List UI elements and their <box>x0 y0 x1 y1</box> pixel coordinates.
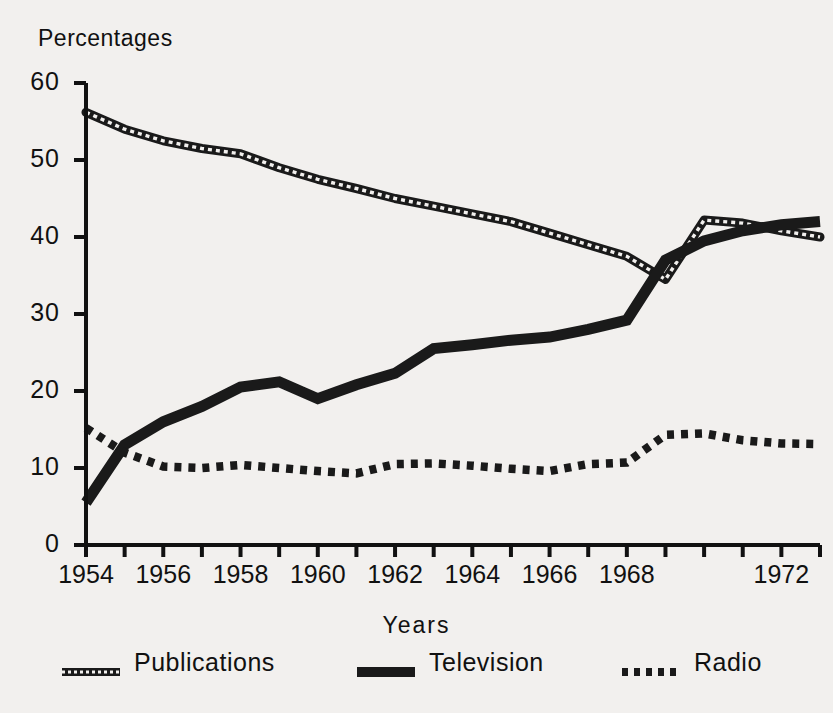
plot-area <box>0 0 833 713</box>
legend-item[interactable]: Radio <box>620 650 762 675</box>
legend-item[interactable]: Publications <box>60 650 275 675</box>
legend-item[interactable]: Television <box>355 650 544 675</box>
chain-line-key <box>60 656 122 670</box>
chart-canvas: Percentages Years 6050403020100 19541956… <box>0 0 833 713</box>
legend-label: Radio <box>694 650 762 675</box>
legend-label: Publications <box>134 650 275 675</box>
dotted-line-key <box>620 656 682 670</box>
chart-legend: PublicationsTelevisionRadio <box>0 650 833 690</box>
solid-line-key <box>355 656 417 670</box>
legend-label: Television <box>429 650 544 675</box>
